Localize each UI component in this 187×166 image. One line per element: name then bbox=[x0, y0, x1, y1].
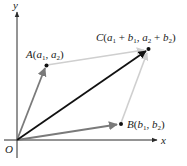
point-b bbox=[119, 122, 123, 126]
point-b-label: B(b1, b2) bbox=[127, 118, 165, 132]
guide-vector-b-to-c bbox=[121, 53, 147, 123]
point-c bbox=[147, 47, 151, 51]
x-axis-label: x bbox=[160, 134, 166, 146]
vector-oa bbox=[17, 68, 45, 140]
vector-addition-diagram: y x O A(a1, a2) B(b1, b2) C(a1 + b1, a2 … bbox=[0, 0, 187, 166]
origin-label: O bbox=[5, 143, 13, 155]
vector-ob bbox=[17, 125, 117, 141]
y-axis-label: y bbox=[12, 0, 18, 11]
point-a-label: A(a1, a2) bbox=[25, 48, 64, 62]
point-c-label: C(a1 + b1, a2 + b2) bbox=[96, 31, 176, 45]
point-a bbox=[45, 64, 49, 68]
